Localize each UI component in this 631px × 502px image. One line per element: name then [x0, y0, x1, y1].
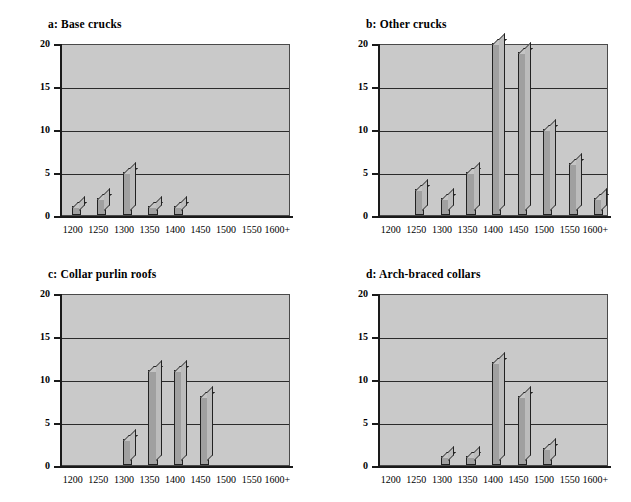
y-axis-tick	[54, 466, 60, 468]
y-axis-tick-label: 0	[328, 461, 368, 471]
bar	[123, 439, 132, 465]
x-axis-tick-label: 1600+	[575, 224, 615, 235]
gridline	[61, 131, 289, 132]
bar	[518, 52, 527, 215]
bar	[441, 456, 450, 465]
bar	[492, 362, 501, 465]
bar-side-face	[422, 179, 428, 211]
bar-side-face	[448, 446, 454, 461]
figure-canvas: a: Base crucks 0510152012001250130013501…	[0, 0, 631, 502]
y-axis-tick	[54, 380, 60, 382]
bar-side-face	[550, 119, 556, 211]
y-axis-tick-label: 10	[10, 125, 50, 135]
y-axis-tick	[54, 294, 60, 296]
bar	[200, 396, 209, 465]
y-axis-tick	[372, 173, 378, 175]
bar-side-face	[156, 196, 162, 211]
y-axis-spine	[60, 294, 62, 466]
gridline	[379, 338, 607, 339]
bar-side-face	[525, 386, 531, 461]
bar-side-face	[448, 188, 454, 211]
y-axis-tick	[54, 337, 60, 339]
y-axis-spine	[378, 44, 380, 216]
bar	[123, 172, 132, 215]
panel-a-plot: 0510152012001250130013501400145015001550…	[34, 40, 299, 224]
x-axis-tick-label: 1600+	[257, 224, 297, 235]
x-axis-tick-label: 1600+	[257, 474, 297, 485]
y-axis-tick	[372, 337, 378, 339]
y-axis-tick	[54, 130, 60, 132]
bar-side-face	[207, 386, 213, 461]
y-axis-tick-label: 15	[328, 332, 368, 342]
x-axis-tick-label: 1600+	[575, 474, 615, 485]
bar	[569, 163, 578, 215]
panel-b-title: b: Other crucks	[366, 18, 447, 30]
panel-a-title: a: Base crucks	[48, 18, 122, 30]
y-axis-tick	[372, 87, 378, 89]
bar-side-face	[104, 188, 110, 211]
y-axis-tick	[372, 44, 378, 46]
y-axis-tick-label: 20	[10, 39, 50, 49]
bar	[415, 189, 424, 215]
y-axis-tick-label: 0	[328, 211, 368, 221]
x-axis-spine	[60, 216, 293, 218]
panel-d-plot: 0510152012001250130013501400145015001550…	[352, 290, 617, 474]
bar	[72, 206, 81, 215]
y-axis-tick	[54, 423, 60, 425]
bar-side-face	[181, 196, 187, 211]
y-axis-tick-label: 10	[328, 125, 368, 135]
bar	[441, 198, 450, 215]
plot-area	[378, 294, 608, 466]
bar-side-face	[130, 429, 136, 461]
bar-side-face	[499, 33, 505, 211]
bar	[518, 396, 527, 465]
bar-side-face	[130, 162, 136, 211]
bar	[543, 129, 552, 215]
bar	[543, 448, 552, 465]
y-axis-tick-label: 15	[10, 332, 50, 342]
bar	[148, 206, 157, 215]
plot-area	[60, 44, 290, 216]
gridline	[61, 174, 289, 175]
y-axis-tick-label: 20	[328, 289, 368, 299]
bar	[466, 456, 475, 465]
bar-side-face	[576, 153, 582, 211]
y-axis-tick-label: 10	[328, 375, 368, 385]
y-axis-tick-label: 15	[10, 82, 50, 92]
bar	[97, 198, 106, 215]
y-axis-tick-label: 5	[10, 418, 50, 428]
gridline	[61, 88, 289, 89]
bar-side-face	[474, 162, 480, 211]
panel-c-plot: 0510152012001250130013501400145015001550…	[34, 290, 299, 474]
y-axis-tick-label: 0	[10, 461, 50, 471]
y-axis-spine	[378, 294, 380, 466]
bar	[594, 198, 603, 215]
y-axis-tick	[54, 44, 60, 46]
y-axis-tick-label: 0	[10, 211, 50, 221]
chart-panel-c: c: Collar purlin roofs 05101520120012501…	[4, 256, 309, 502]
x-axis-spine	[378, 216, 611, 218]
y-axis-tick	[372, 423, 378, 425]
bar-side-face	[79, 196, 85, 211]
panel-d-title: d: Arch-braced collars	[366, 268, 481, 280]
plot-area	[60, 294, 290, 466]
y-axis-tick-label: 20	[10, 289, 50, 299]
y-axis-tick	[372, 130, 378, 132]
bar-side-face	[181, 360, 187, 461]
y-axis-tick	[372, 216, 378, 218]
y-axis-tick-label: 20	[328, 39, 368, 49]
bar-side-face	[474, 446, 480, 461]
bar-side-face	[156, 360, 162, 461]
plot-area	[378, 44, 608, 216]
chart-panel-b: b: Other crucks 051015201200125013001350…	[322, 6, 627, 254]
chart-panel-d: d: Arch-braced collars 05101520120012501…	[322, 256, 627, 502]
bar	[492, 43, 501, 215]
panel-c-title: c: Collar purlin roofs	[48, 268, 156, 280]
panel-b-plot: 0510152012001250130013501400145015001550…	[352, 40, 617, 224]
gridline	[61, 338, 289, 339]
y-axis-tick	[54, 87, 60, 89]
y-axis-tick-label: 15	[328, 82, 368, 92]
y-axis-spine	[60, 44, 62, 216]
bar-side-face	[601, 188, 607, 211]
y-axis-tick-label: 5	[328, 168, 368, 178]
